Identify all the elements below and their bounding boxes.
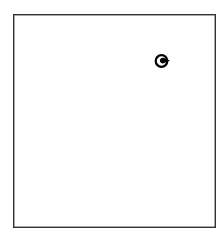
circle-arrow-icon xyxy=(154,53,172,69)
circle-arrow-button[interactable] xyxy=(154,53,172,69)
drawing-canvas[interactable] xyxy=(13,14,216,228)
